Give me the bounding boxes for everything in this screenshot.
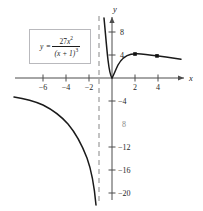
y-tick-label--12: −12 [118, 143, 131, 152]
denominator-expression: (x + 1) [54, 48, 75, 57]
curve-left-branch [14, 97, 96, 205]
y-tick-label--20: −20 [118, 189, 131, 198]
x-tick-label--4: −4 [62, 83, 71, 92]
numerator-coefficient: 27 [60, 37, 68, 46]
x-tick-label-2: 2 [133, 83, 137, 92]
x-axis-arrow [178, 75, 184, 80]
x-axis-label: x [188, 73, 193, 83]
marked-point-x3-6 [155, 54, 159, 58]
graph-figure: −6 −4 −2 2 4 8 4 −4 8 −12 −16 −20 x y [0, 0, 203, 211]
y-tick-label-8: 8 [120, 28, 124, 37]
marked-point-x2 [133, 52, 137, 56]
equation-content: y = 27x2 (x + 1)3 [30, 30, 90, 63]
curve-right-branch [104, 18, 181, 78]
numerator-exponent: 2 [70, 35, 73, 41]
y-axis-arrow [109, 17, 114, 23]
y-tick-label--16: −16 [118, 166, 131, 175]
equation-denominator: (x + 1)3 [52, 46, 80, 57]
y-axis-label: y [112, 4, 117, 14]
denominator-exponent: 3 [75, 47, 78, 53]
y-tick-label--8: 8 [122, 120, 126, 129]
x-tick-label-4: 4 [156, 83, 160, 92]
equation-callout-box: y = 27x2 (x + 1)3 [29, 29, 91, 64]
equation-numerator: 27x2 [58, 36, 76, 46]
y-tick-label--4: −4 [118, 97, 127, 106]
equation-fraction: 27x2 (x + 1)3 [52, 36, 80, 57]
equation-equals-sign: = [44, 42, 52, 51]
x-tick-label--2: −2 [85, 83, 94, 92]
y-axis-tick-labels: 8 4 −4 8 −12 −16 −20 [118, 28, 131, 198]
x-tick-label--6: −6 [39, 83, 48, 92]
